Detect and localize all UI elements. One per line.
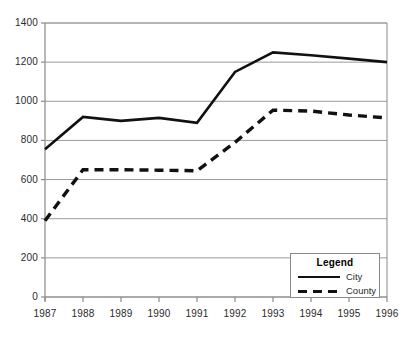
- x-tick-label-1987: 1987: [25, 308, 65, 319]
- legend-entry-city: City: [291, 271, 379, 282]
- x-tick-label-1993: 1993: [253, 308, 293, 319]
- legend-label-county: County: [346, 285, 376, 296]
- legend-entry-county: County: [291, 285, 379, 296]
- y-tick-label-1000: 1000: [15, 95, 38, 106]
- y-tick-label-200: 200: [21, 252, 38, 263]
- x-tick-label-1990: 1990: [139, 308, 179, 319]
- y-tick-label-0: 0: [32, 291, 38, 302]
- x-tick-label-1991: 1991: [177, 308, 217, 319]
- legend-swatch-solid-line-icon: [298, 272, 340, 282]
- x-tick-label-1994: 1994: [291, 308, 331, 319]
- y-tick-label-800: 800: [21, 134, 38, 145]
- y-tick-label-400: 400: [21, 213, 38, 224]
- legend-swatch-dashed-line-icon: [298, 286, 340, 296]
- legend-title: Legend: [291, 257, 379, 268]
- legend-label-city: City: [346, 271, 362, 282]
- y-tick-label-600: 600: [21, 174, 38, 185]
- x-tick-label-1995: 1995: [329, 308, 369, 319]
- line-chart: 0200400600800100012001400 19871988198919…: [0, 0, 415, 341]
- y-tick-label-1200: 1200: [15, 56, 38, 67]
- series-line-county: [45, 110, 387, 221]
- chart-legend: Legend City County: [290, 253, 380, 298]
- x-tick-label-1988: 1988: [63, 308, 103, 319]
- x-tick-label-1992: 1992: [215, 308, 255, 319]
- x-tick-label-1989: 1989: [101, 308, 141, 319]
- y-tick-label-1400: 1400: [15, 17, 38, 28]
- x-tick-label-1996: 1996: [367, 308, 407, 319]
